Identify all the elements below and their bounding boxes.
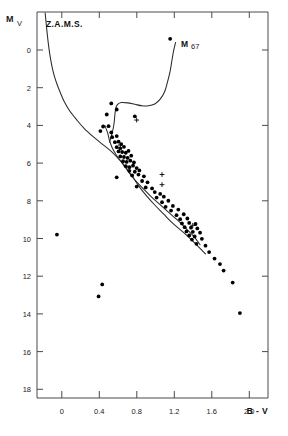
star-point [100, 283, 104, 287]
star-point [183, 225, 187, 229]
star-point [125, 160, 129, 164]
star-point [140, 179, 144, 183]
figure-container: 0 2 4 6 8 10 12 14 16 18 [0, 0, 288, 436]
star-point [109, 102, 113, 106]
star-point [122, 145, 126, 149]
y-tick-label: 8 [27, 197, 31, 206]
star-point [129, 154, 133, 158]
star-point [135, 185, 139, 189]
star-point [150, 186, 154, 190]
star-point [171, 204, 175, 208]
star-point [109, 131, 113, 135]
star-point [182, 212, 186, 216]
y-tick-label: 18 [23, 385, 31, 394]
star-point [195, 227, 199, 231]
star-point [105, 113, 109, 117]
x-tick-label: 1.2 [169, 407, 179, 416]
star-point [142, 174, 146, 178]
uncertain-star-point [160, 172, 165, 177]
y-tick-label: 0 [27, 46, 31, 55]
y-tick-label: 4 [27, 121, 31, 130]
star-point [218, 262, 222, 266]
star-point [101, 125, 105, 129]
star-point [169, 209, 173, 213]
x-tick-label: 0.4 [94, 407, 104, 416]
y-axis-ticks-right [262, 50, 268, 352]
y-axis-title: M V [6, 14, 22, 28]
star-point [128, 159, 132, 163]
star-point [162, 195, 166, 199]
star-point [191, 230, 195, 234]
star-point [137, 173, 141, 177]
star-point [118, 155, 122, 159]
star-point [198, 231, 202, 235]
star-point [153, 190, 157, 194]
star-point [127, 149, 131, 153]
star-point [127, 165, 131, 169]
x-tick-label: 0 [60, 407, 64, 416]
uncertain-star-point [134, 118, 139, 123]
star-point [200, 237, 204, 241]
star-point [110, 135, 114, 139]
star-point [160, 200, 164, 204]
star-point [120, 150, 124, 154]
star-point [115, 108, 119, 112]
x-tick-label: 0.8 [132, 407, 142, 416]
m67-giant-branch-curve [109, 42, 175, 142]
star-point [187, 234, 191, 238]
y-tick-label: 10 [23, 235, 31, 244]
y-axis-tick-labels: 0 2 4 6 8 10 12 14 16 18 [23, 46, 31, 394]
x-axis-tick-labels: 0 0.4 0.8 1.2 1.6 2.0 [60, 407, 255, 416]
uncertain-star-point [160, 182, 165, 187]
star-point [158, 192, 162, 196]
x-axis-ticks-top [62, 12, 250, 18]
star-data-points [55, 37, 242, 315]
star-point [238, 311, 242, 315]
x-axis-title-text: B - V [247, 406, 268, 416]
star-point [176, 208, 180, 212]
y-tick-label: 14 [23, 310, 31, 319]
star-point [190, 238, 194, 242]
star-point [146, 180, 150, 184]
x-axis-ticks [62, 391, 250, 398]
star-point [115, 134, 119, 138]
star-point [107, 124, 111, 128]
y-axis-title-subscript: V [17, 19, 22, 28]
y-axis-title-text: M [6, 14, 14, 24]
star-point [195, 242, 199, 246]
star-point [164, 205, 168, 209]
zams-annotation-text: Z.A.M.S. [46, 19, 83, 29]
zams-annotation: Z.A.M.S. [46, 19, 83, 29]
star-point [180, 222, 184, 226]
data-curves [45, 13, 205, 254]
star-point [137, 169, 141, 173]
zams-curve [45, 13, 205, 254]
star-point [97, 295, 101, 299]
star-point [122, 155, 126, 159]
star-point [55, 233, 59, 237]
star-point [115, 175, 119, 179]
y-tick-label: 12 [23, 272, 31, 281]
colour-magnitude-plot: 0 2 4 6 8 10 12 14 16 18 [0, 0, 288, 436]
star-point [204, 244, 208, 248]
star-point [115, 145, 119, 149]
star-point [133, 170, 137, 174]
x-axis-title: B - V [247, 406, 268, 416]
star-point [193, 235, 197, 239]
star-point [166, 199, 170, 203]
cluster-annotation-subscript: 67 [191, 42, 199, 51]
star-point [127, 169, 131, 173]
star-point [207, 250, 211, 254]
star-point [231, 281, 235, 285]
y-tick-label: 16 [23, 348, 31, 357]
star-point [168, 37, 172, 41]
star-point [175, 213, 179, 217]
cluster-annotation: M 67 [181, 39, 199, 51]
star-point [133, 114, 137, 118]
star-point [185, 230, 189, 234]
star-point [124, 164, 128, 168]
star-point [99, 129, 103, 133]
star-point [222, 269, 226, 273]
plot-frame [37, 12, 268, 398]
cluster-annotation-text: M [181, 39, 188, 49]
